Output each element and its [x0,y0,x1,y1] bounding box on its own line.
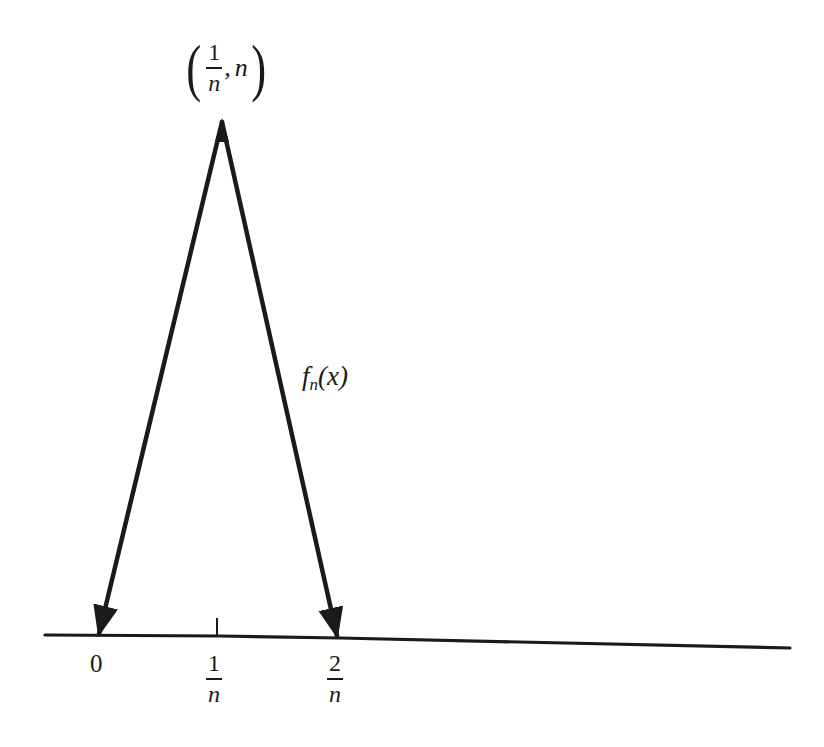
tick-2n-denominator: n [329,682,341,707]
fraction-bar [327,678,343,680]
tick-1n-numerator: 1 [208,651,220,676]
apex-x-denominator: n [208,71,220,96]
apex-separator: , [224,55,231,81]
x-axis-line [45,635,790,648]
tent-function-figure [0,0,824,747]
tick-1n-denominator: n [208,682,220,707]
apex-y-value: n [235,55,248,81]
tent-left-edge [99,122,222,634]
close-paren: ) [251,36,266,100]
open-paren: ( [186,36,201,100]
function-name: f [302,361,310,391]
function-subscript: n [310,375,319,394]
x-tick-label-2-over-n: 2 n [327,651,343,707]
x-tick-label-1-over-n: 1 n [206,651,222,707]
fraction-bar [206,678,222,680]
fraction-bar [206,67,222,69]
apex-x-numerator: 1 [208,40,220,65]
apex-coordinate-label: ( 1 n , n ) [183,36,269,100]
function-label: fn(x) [302,363,348,393]
x-tick-label-zero: 0 [90,651,103,676]
function-argument: (x) [318,361,348,391]
apex-point [215,118,229,142]
tick-2n-numerator: 2 [329,651,341,676]
apex-x-fraction: 1 n [206,40,222,96]
